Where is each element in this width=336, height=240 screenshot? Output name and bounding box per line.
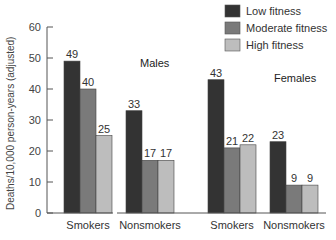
bar bbox=[80, 89, 96, 213]
bar-value-label: 40 bbox=[82, 76, 94, 88]
y-tick-label: 20 bbox=[29, 145, 41, 157]
y-axis: 0102030405060 bbox=[29, 21, 53, 219]
y-tick-label: 60 bbox=[29, 21, 41, 33]
bar-value-label: 43 bbox=[210, 67, 222, 79]
bar-value-label: 33 bbox=[128, 98, 140, 110]
bar-value-label: 17 bbox=[160, 147, 172, 159]
legend-swatch bbox=[225, 5, 240, 17]
bar-value-label: 49 bbox=[66, 48, 78, 60]
x-category-label: Nonsmokers bbox=[119, 219, 181, 231]
bar-value-label: 9 bbox=[307, 172, 313, 184]
group-label-males: Males bbox=[140, 57, 170, 69]
bar bbox=[302, 185, 318, 213]
y-tick-label: 0 bbox=[35, 207, 41, 219]
x-axis: SmokersNonsmokersSmokersNonsmokers bbox=[47, 213, 326, 231]
legend: Low fitnessModerate fitnessHigh fitness bbox=[225, 5, 328, 51]
bar bbox=[64, 61, 80, 213]
bar-value-label: 21 bbox=[226, 135, 238, 147]
group-label-females: Females bbox=[274, 72, 317, 84]
bar bbox=[96, 136, 112, 214]
bar bbox=[270, 142, 286, 213]
bar-value-label: 17 bbox=[144, 147, 156, 159]
y-tick-label: 30 bbox=[29, 114, 41, 126]
y-tick-label: 40 bbox=[29, 83, 41, 95]
bar bbox=[158, 160, 174, 213]
bar bbox=[208, 80, 224, 213]
bar-value-label: 22 bbox=[242, 132, 254, 144]
bar-chart: 0102030405060 4940253317174321222399 Smo… bbox=[0, 0, 336, 240]
x-category-label: Nonsmokers bbox=[263, 219, 325, 231]
bar-value-label: 9 bbox=[291, 172, 297, 184]
legend-swatch bbox=[225, 22, 240, 34]
legend-label: High fitness bbox=[246, 39, 304, 51]
bar bbox=[240, 145, 256, 213]
x-category-label: Smokers bbox=[210, 219, 254, 231]
bar bbox=[126, 111, 142, 213]
y-tick-label: 10 bbox=[29, 176, 41, 188]
bar bbox=[224, 148, 240, 213]
bar-value-label: 25 bbox=[98, 123, 110, 135]
legend-label: Low fitness bbox=[246, 5, 302, 17]
bar bbox=[286, 185, 302, 213]
y-tick-label: 50 bbox=[29, 52, 41, 64]
legend-label: Moderate fitness bbox=[246, 22, 328, 34]
legend-swatch bbox=[225, 39, 240, 51]
bar-value-label: 23 bbox=[272, 129, 284, 141]
bar bbox=[142, 160, 158, 213]
y-axis-label: Deaths/10,000 person-years (adjusted) bbox=[5, 37, 16, 210]
x-category-label: Smokers bbox=[66, 219, 110, 231]
